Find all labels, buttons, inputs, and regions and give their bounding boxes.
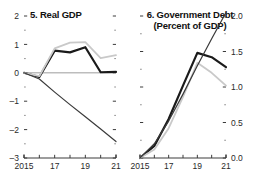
data-series-line-series-light-gray [24,42,116,76]
y-axis-tick-label: 0.5 [231,118,243,128]
data-series-line-series-thin-dark [24,73,116,142]
x-axis-tick-label: 19 [193,161,203,171]
x-axis-tick-label: 2015 [15,161,34,171]
chart-canvas-right: 0.00.51.01.52.02015171921 [128,0,257,188]
chart-panel-government-debt: 6. Government Debt (Percent of GDP) 0.00… [128,0,257,188]
y-axis-tick-label: 1.5 [231,47,243,57]
y-axis-tick-label: –1 [10,96,20,106]
x-axis-tick-label: 17 [50,161,60,171]
chart-panel-real-gdp: 5. Real GDP –3–2–10122015171921 [0,0,128,188]
y-axis-tick-label: 0.0 [231,153,243,163]
x-axis-tick-label: 17 [164,161,174,171]
x-axis-tick-label: 21 [221,161,231,171]
dual-chart-figure: 5. Real GDP –3–2–10122015171921 6. Gover… [0,0,257,188]
y-axis-tick-label: 0 [14,68,19,78]
x-axis-tick-label: 19 [81,161,91,171]
y-axis-tick-label: 1.0 [231,82,243,92]
y-axis-tick-label: 1 [14,40,19,50]
chart-canvas-left: –3–2–10122015171921 [0,0,128,188]
x-axis-tick-label: 2015 [131,161,150,171]
y-axis-tick-label: 2 [14,11,19,21]
data-series-line-series-dark-bold [140,53,226,158]
y-axis-tick-label: –2 [10,125,20,135]
x-axis-tick-label: 21 [111,161,121,171]
y-axis-tick-label: 2.0 [231,11,243,21]
data-series-line-series-light-gray [140,63,226,158]
